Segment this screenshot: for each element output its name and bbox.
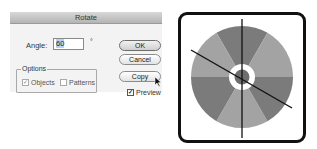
rotated-disk-artwork — [0, 0, 317, 149]
